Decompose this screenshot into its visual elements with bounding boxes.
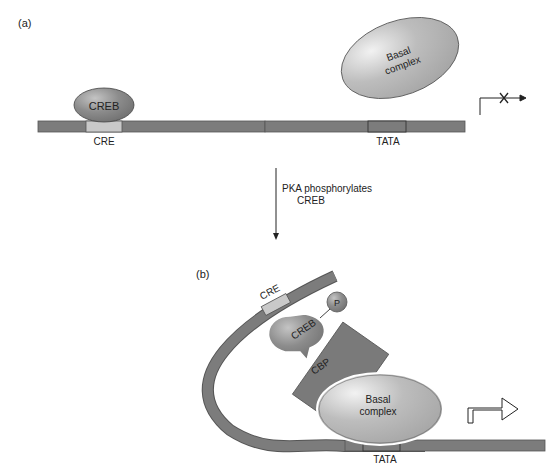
cre-label-a: CRE: [93, 136, 114, 147]
active-transcription-arrow-icon: [468, 398, 518, 423]
creb-label-a: CREB: [89, 100, 120, 112]
phosphate-link: [320, 309, 330, 318]
blocked-transcription-arrow-icon: [480, 93, 526, 115]
dna-strand-a: [38, 121, 465, 132]
tata-label-b: TATA: [373, 454, 397, 465]
basal-complex-a: Basal complex: [330, 2, 470, 113]
phosphate-label: P: [334, 298, 340, 308]
tata-label-a: TATA: [376, 136, 400, 147]
panel-b-label: (b): [196, 268, 209, 280]
panel-a-label: (a): [18, 17, 31, 29]
transition-label-line1: PKA phosphorylates: [282, 183, 372, 194]
basal-label-b-line2: complex: [359, 406, 396, 417]
transition-label-line2: CREB: [297, 195, 325, 206]
cre-box-a: [86, 121, 122, 132]
creb-diagram: (a) CREB CRE Basal complex TATA PKA phos…: [0, 0, 558, 472]
basal-label-b-line1: Basal: [365, 394, 390, 405]
down-arrow-icon: [273, 168, 279, 240]
tata-box-a: [368, 121, 406, 132]
